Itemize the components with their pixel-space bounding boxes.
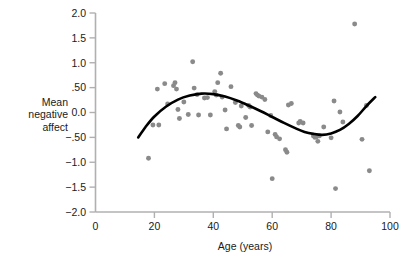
scatter-point [190, 59, 195, 64]
scatter-point [162, 81, 167, 86]
scatter-point [352, 21, 357, 26]
x-tick-label: 20 [149, 220, 161, 232]
y-tick-label: 0.0 [71, 106, 86, 118]
x-axis-title-text: Age (years) [218, 240, 272, 252]
scatter-point [150, 122, 155, 127]
x-tick-label: 0 [93, 220, 99, 232]
scatter-point [265, 129, 270, 134]
scatter-point [229, 84, 234, 89]
x-axis: 020406080100 [93, 212, 399, 232]
scatter-point [192, 86, 197, 91]
y-tick-label-group: 2.01.51.0.500.0−.50−1.0−1.5−2.0 [65, 7, 86, 218]
scatter-point [315, 139, 320, 144]
x-tick-label-group: 020406080100 [93, 220, 399, 232]
scatter-point [249, 123, 254, 128]
y-tick-label: .50 [71, 81, 86, 93]
x-tick-label: 60 [266, 220, 278, 232]
scatter-point [262, 97, 267, 102]
y-tick-label: −1.0 [65, 156, 86, 168]
scatter-point [146, 156, 151, 161]
scatter-point [321, 124, 326, 129]
scatter-point [367, 168, 372, 173]
scatter-point [174, 87, 179, 92]
scatter-point [340, 120, 345, 125]
scatter-point [332, 99, 337, 104]
scatter-point [208, 113, 213, 118]
scatter-point [237, 124, 242, 129]
scatter-plot-figure: Meannegativeaffect Age (years) 2.01.51.0… [0, 0, 412, 266]
scatter-point [360, 137, 365, 142]
y-tick-label: 1.0 [71, 57, 86, 69]
y-axis-title: Meannegativeaffect [2, 96, 68, 133]
y-tick-label: −2.0 [65, 206, 86, 218]
scatter-point [177, 116, 182, 121]
scatter-point [186, 112, 191, 117]
scatter-point [337, 110, 342, 115]
scatter-point [301, 121, 306, 126]
x-tick-group [154, 212, 390, 218]
scatter-point [223, 108, 228, 113]
y-tick-label: −.50 [65, 131, 86, 143]
x-tick-label: 40 [207, 220, 219, 232]
scatter-point [333, 186, 338, 191]
scatter-point [218, 71, 223, 76]
y-tick-group [90, 13, 96, 212]
y-axis-title-line-2: negative [28, 108, 68, 120]
scatter-point [181, 100, 186, 105]
scatter-point [289, 101, 294, 106]
scatter-points-layer [146, 21, 372, 191]
scatter-point [205, 95, 210, 100]
scatter-point [284, 150, 289, 155]
scatter-point [329, 135, 334, 140]
x-axis-title: Age (years) [0, 240, 412, 252]
trend-line [138, 93, 375, 137]
y-axis-title-line-3: affect [43, 121, 69, 133]
y-axis-title-line-1: Mean [42, 96, 68, 108]
y-tick-label: 1.5 [71, 32, 86, 44]
x-tick-label: 100 [381, 220, 399, 232]
y-tick-label: −1.5 [65, 181, 86, 193]
scatter-point [243, 115, 248, 120]
scatter-point [173, 80, 178, 85]
scatter-point [215, 80, 220, 85]
scatter-point [155, 87, 160, 92]
scatter-point [224, 126, 229, 131]
y-tick-label: 2.0 [71, 7, 86, 19]
scatter-point [196, 113, 201, 118]
y-axis: 2.01.51.0.500.0−.50−1.0−1.5−2.0 [65, 7, 95, 218]
scatter-point [176, 107, 181, 112]
scatter-point [156, 122, 161, 127]
x-tick-label: 80 [325, 220, 337, 232]
scatter-point [277, 136, 282, 141]
scatter-point [270, 176, 275, 181]
